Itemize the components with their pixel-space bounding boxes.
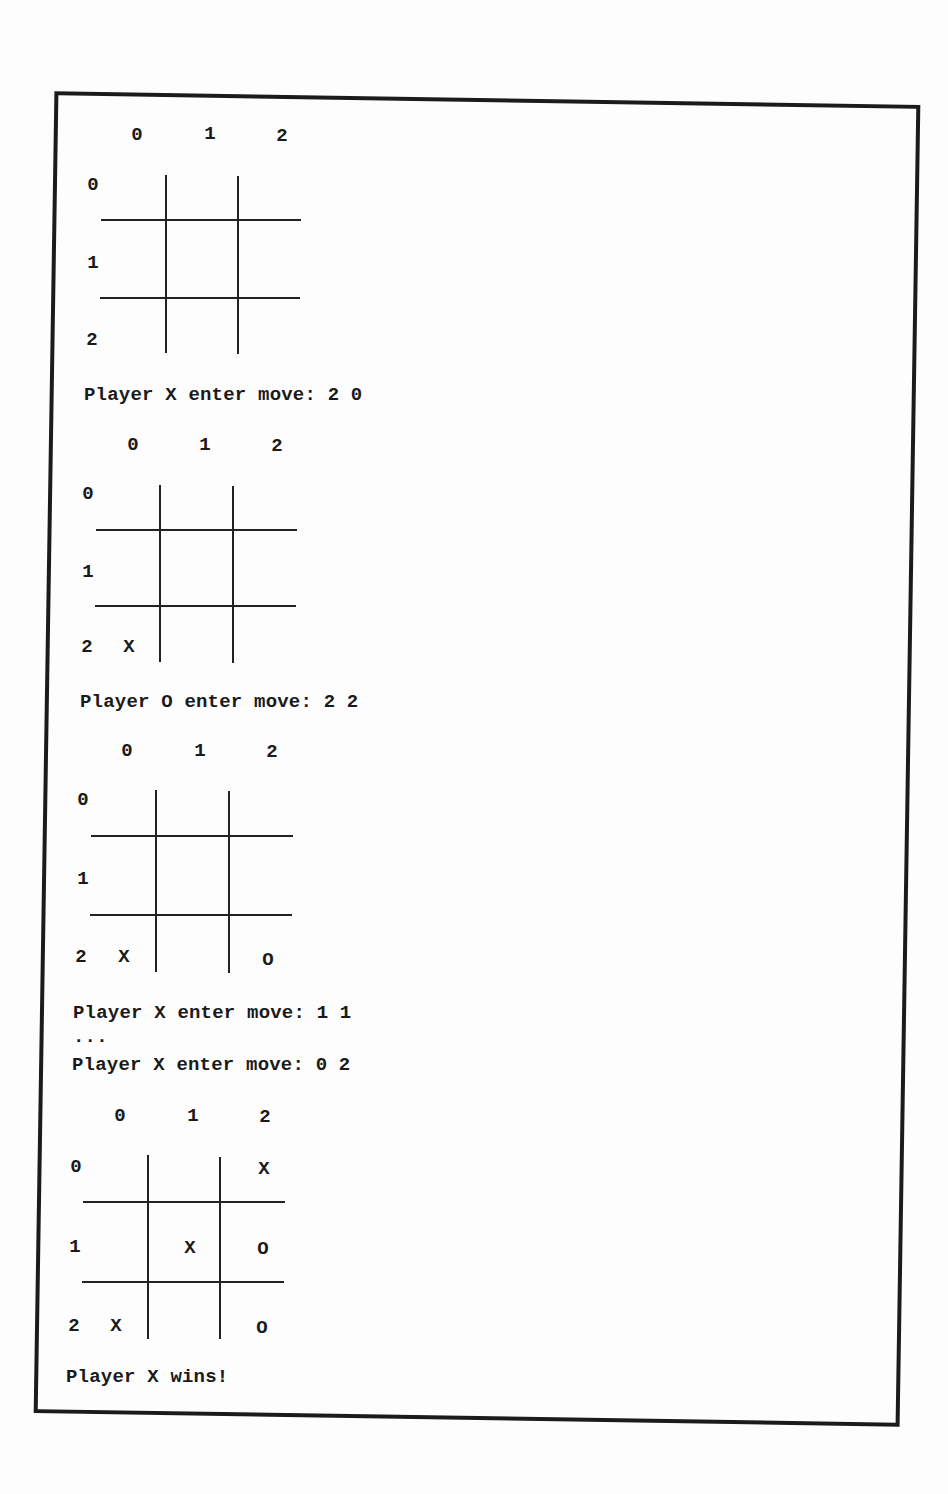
cell-1-2: O <box>257 1240 268 1259</box>
grid-vline-2 <box>219 1157 221 1339</box>
col-label-2: 2 <box>259 1108 270 1127</box>
cell-2-0: X <box>110 1317 121 1336</box>
col-label-0: 0 <box>114 1107 125 1126</box>
row-label-2: 2 <box>68 1317 79 1336</box>
row-label-1: 1 <box>69 1238 80 1257</box>
grid-vline-1 <box>147 1155 149 1339</box>
figure-content: 0 1 2 0 1 2 Player X enter move: 2 0 0 1 <box>0 0 948 1494</box>
grid-hline-2 <box>82 1281 284 1283</box>
board-4: 0 1 2 0 1 2 X X O X O Player X wins! <box>0 0 948 1400</box>
scanned-page: 0 1 2 0 1 2 Player X enter move: 2 0 0 1 <box>0 0 948 1494</box>
cell-0-2: X <box>258 1160 269 1179</box>
game-result: Player X wins! <box>66 1368 228 1387</box>
col-label-1: 1 <box>187 1107 198 1126</box>
grid-hline-1 <box>83 1201 285 1203</box>
row-label-0: 0 <box>70 1158 81 1177</box>
cell-2-2: O <box>256 1319 267 1338</box>
cell-1-1: X <box>184 1239 195 1258</box>
